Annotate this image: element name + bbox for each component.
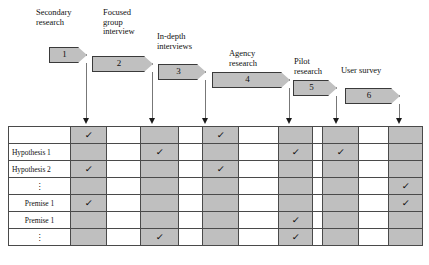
matrix-cell[interactable]: [359, 229, 389, 246]
matrix-cell[interactable]: ✓: [323, 144, 359, 161]
matrix-cell[interactable]: [279, 178, 313, 195]
connector-arrowhead-1: [83, 118, 89, 124]
matrix-cell[interactable]: [239, 144, 279, 161]
matrix-cell[interactable]: ✓: [203, 161, 239, 178]
check-icon: ✓: [216, 164, 225, 173]
matrix-cell[interactable]: [203, 144, 239, 161]
matrix-cell[interactable]: [239, 229, 279, 246]
stage-number-2: 2: [117, 59, 122, 69]
matrix-cell[interactable]: [359, 178, 389, 195]
connector-arrowhead-4: [286, 118, 292, 124]
matrix-cell[interactable]: [179, 161, 203, 178]
matrix-cell[interactable]: [107, 195, 141, 212]
matrix-cell[interactable]: ✓: [279, 144, 313, 161]
stage-chevron-1[interactable]: 1: [49, 47, 87, 63]
matrix-cell[interactable]: [323, 161, 359, 178]
stage-chevron-5[interactable]: 5: [293, 80, 337, 96]
matrix-cell[interactable]: ✓: [279, 229, 313, 246]
matrix-cell[interactable]: [359, 127, 389, 144]
matrix-cell[interactable]: [107, 127, 141, 144]
matrix-cell[interactable]: [239, 195, 279, 212]
coverage-matrix: ✓✓Hypothesis 1✓✓✓Hypothesis 2✓✓⋮✓Premise…: [8, 126, 423, 246]
matrix-cell[interactable]: [179, 144, 203, 161]
matrix-cell[interactable]: [389, 144, 423, 161]
matrix-cell[interactable]: [239, 161, 279, 178]
matrix-row-label: Hypothesis 2: [9, 161, 71, 178]
matrix-cell[interactable]: ✓: [141, 229, 179, 246]
matrix-cell[interactable]: [323, 195, 359, 212]
matrix-cell[interactable]: ✓: [279, 212, 313, 229]
matrix-cell[interactable]: [203, 229, 239, 246]
matrix-cell[interactable]: [279, 127, 313, 144]
check-icon: ✓: [155, 147, 164, 156]
matrix-cell[interactable]: [141, 178, 179, 195]
matrix-cell[interactable]: [71, 178, 107, 195]
matrix-cell[interactable]: [141, 212, 179, 229]
matrix-cell[interactable]: [107, 178, 141, 195]
matrix-cell[interactable]: ✓: [389, 178, 423, 195]
matrix-row: ✓✓: [9, 127, 423, 144]
matrix-cell[interactable]: [71, 212, 107, 229]
matrix-cell[interactable]: [359, 144, 389, 161]
matrix-cell[interactable]: [203, 195, 239, 212]
stage-chevron-4[interactable]: 4: [212, 72, 290, 88]
matrix-cell[interactable]: [141, 127, 179, 144]
matrix-cell[interactable]: [179, 195, 203, 212]
matrix-cell[interactable]: [313, 178, 323, 195]
diagram-canvas: Secondary research1Focused group intervi…: [0, 0, 429, 265]
matrix-row-label: [9, 127, 71, 144]
connector-line-2: [152, 72, 153, 118]
matrix-cell[interactable]: [203, 212, 239, 229]
stage-chevron-6[interactable]: 6: [345, 88, 400, 104]
matrix-cell[interactable]: [141, 195, 179, 212]
matrix-cell[interactable]: [313, 144, 323, 161]
matrix-cell[interactable]: [141, 161, 179, 178]
matrix-cell[interactable]: [239, 212, 279, 229]
matrix-cell[interactable]: [71, 229, 107, 246]
matrix-cell[interactable]: [71, 144, 107, 161]
matrix-cell[interactable]: [389, 127, 423, 144]
matrix-cell[interactable]: [179, 178, 203, 195]
matrix-cell[interactable]: [323, 212, 359, 229]
matrix-cell[interactable]: [389, 229, 423, 246]
stage-chevron-2[interactable]: 2: [92, 56, 153, 72]
matrix-cell[interactable]: [179, 127, 203, 144]
matrix-cell[interactable]: [389, 161, 423, 178]
matrix-row: Premise 1✓✓: [9, 195, 423, 212]
matrix-cell[interactable]: [203, 178, 239, 195]
connector-arrowhead-3: [202, 118, 208, 124]
matrix-cell[interactable]: ✓: [71, 161, 107, 178]
matrix-cell[interactable]: [313, 195, 323, 212]
matrix-cell[interactable]: [313, 127, 323, 144]
matrix-cell[interactable]: [179, 212, 203, 229]
matrix-cell[interactable]: [359, 161, 389, 178]
matrix-cell[interactable]: ✓: [389, 195, 423, 212]
matrix-cell[interactable]: [313, 212, 323, 229]
matrix-cell[interactable]: [359, 195, 389, 212]
matrix-cell[interactable]: [313, 229, 323, 246]
matrix-cell[interactable]: [107, 212, 141, 229]
stage-number-3: 3: [176, 67, 181, 77]
matrix-cell[interactable]: [239, 178, 279, 195]
matrix-cell[interactable]: [279, 161, 313, 178]
matrix-row-label: ⋮: [9, 178, 71, 195]
matrix-cell[interactable]: [389, 212, 423, 229]
matrix-cell[interactable]: [323, 178, 359, 195]
matrix-cell[interactable]: [107, 144, 141, 161]
matrix-cell[interactable]: ✓: [71, 127, 107, 144]
matrix-cell[interactable]: ✓: [203, 127, 239, 144]
matrix-cell[interactable]: [323, 127, 359, 144]
stage-chevron-3[interactable]: 3: [158, 64, 206, 80]
matrix-cell[interactable]: [279, 195, 313, 212]
matrix-cell[interactable]: [179, 229, 203, 246]
matrix-cell[interactable]: ✓: [71, 195, 107, 212]
matrix-row: ⋮✓✓: [9, 229, 423, 246]
matrix-cell[interactable]: [107, 229, 141, 246]
matrix-cell[interactable]: [359, 212, 389, 229]
matrix-cell[interactable]: [323, 229, 359, 246]
matrix-cell[interactable]: [313, 161, 323, 178]
matrix-cell[interactable]: ✓: [141, 144, 179, 161]
matrix-row-label: Premise 1: [9, 195, 71, 212]
matrix-cell[interactable]: [107, 161, 141, 178]
matrix-cell[interactable]: [239, 127, 279, 144]
